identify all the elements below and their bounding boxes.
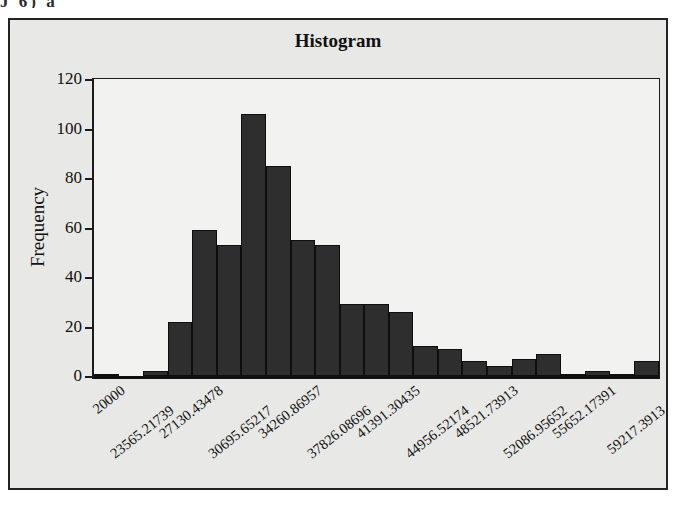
- histogram-bars: [94, 79, 659, 376]
- histogram-bar: [438, 349, 463, 376]
- histogram-bar: [217, 245, 242, 376]
- histogram-bar: [364, 304, 389, 376]
- plot-area: 020406080100120: [92, 78, 660, 379]
- histogram-bar: [512, 359, 537, 376]
- figure-frame: Histogram Frequency 020406080100120 2000…: [8, 18, 668, 490]
- histogram-bar: [94, 374, 119, 376]
- y-tick-label: 60: [65, 218, 82, 238]
- histogram-bar: [610, 374, 635, 376]
- histogram-bar: [340, 304, 365, 376]
- y-tick-label: 120: [57, 69, 83, 89]
- y-tick-mark: [85, 228, 94, 230]
- y-axis-title-label: Frequency: [27, 186, 49, 266]
- y-tick-mark: [85, 178, 94, 180]
- histogram-bar: [315, 245, 340, 376]
- histogram-bar: [413, 346, 438, 376]
- histogram-bar: [561, 374, 586, 376]
- histogram-bar: [192, 230, 217, 376]
- y-tick-mark: [85, 129, 94, 131]
- x-axis-ticks: 2000023565.2173927130.4347830695.6521734…: [92, 382, 672, 482]
- histogram-bar: [389, 312, 414, 376]
- histogram-bar: [168, 322, 193, 376]
- y-tick-label: 40: [65, 267, 82, 287]
- y-tick-mark: [85, 79, 94, 81]
- y-tick-label: 20: [65, 317, 82, 337]
- histogram-bar: [291, 240, 316, 376]
- histogram-bar: [536, 354, 561, 376]
- y-tick-label: 100: [57, 119, 83, 139]
- x-tick-label: 59217.3913: [604, 402, 669, 458]
- y-tick-label: 80: [65, 168, 82, 188]
- y-axis-title: Frequency: [26, 78, 50, 375]
- histogram-bar: [266, 166, 291, 376]
- chart-title: Histogram: [10, 30, 666, 52]
- histogram-bar: [585, 371, 610, 376]
- histogram-bar: [487, 366, 512, 376]
- y-tick-label: 0: [74, 366, 83, 386]
- histogram-bar: [143, 371, 168, 376]
- scan-artifact-text: J 6) a: [0, 0, 80, 8]
- y-tick-mark: [85, 277, 94, 279]
- x-tick-label: 20000: [89, 382, 128, 418]
- histogram-bar: [462, 361, 487, 376]
- y-tick-mark: [85, 376, 94, 378]
- histogram-bar: [634, 361, 659, 376]
- histogram-bar: [241, 114, 266, 376]
- y-tick-mark: [85, 327, 94, 329]
